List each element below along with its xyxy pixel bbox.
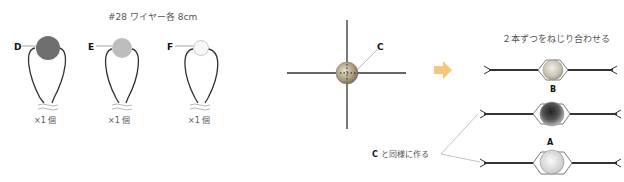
label-b: B — [550, 85, 556, 94]
twisted-a — [480, 150, 621, 174]
count-d: ×1 個 — [34, 115, 56, 125]
twisted-top — [484, 60, 617, 80]
count-e: ×1 個 — [108, 115, 130, 125]
note-text: と同様に作る — [381, 149, 429, 159]
bead-e-assembly: E ×1 個 — [88, 38, 138, 125]
arrow-right-icon — [434, 61, 452, 79]
bead-e — [112, 38, 132, 58]
note-label-c: C — [372, 150, 378, 159]
label-a: A — [547, 138, 554, 147]
label-d: D — [14, 42, 21, 52]
bead-c-cross: C — [287, 20, 406, 129]
label-e: E — [88, 42, 94, 52]
bead-d-assembly: D ×1 個 — [14, 36, 65, 125]
bead-f-assembly: F ×1 個 — [167, 41, 218, 126]
label-f: F — [167, 42, 173, 52]
diagram-canvas: #28 ワイヤー各 8cm D ×1 個 E ×1 個 F ×1 個 C — [0, 0, 624, 182]
bead-d — [36, 36, 60, 60]
bead-f — [194, 41, 209, 56]
label-c: C — [377, 42, 384, 52]
twisted-b — [480, 102, 621, 126]
wire-title: #28 ワイヤー各 8cm — [108, 11, 197, 22]
twist-title: ２本ずつをねじり合わせる — [502, 33, 610, 44]
count-f: ×1 個 — [188, 115, 210, 125]
